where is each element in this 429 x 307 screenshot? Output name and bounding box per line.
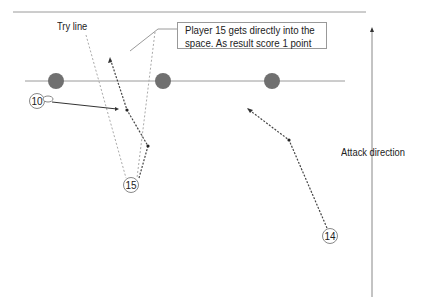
arrowhead-up-icon (370, 27, 374, 32)
player-10: 10 (30, 94, 54, 109)
defender-marker (48, 73, 64, 89)
player-number: 15 (125, 180, 137, 191)
try-line-label: Try line (57, 20, 87, 32)
arrowhead (247, 108, 253, 113)
path-node (287, 138, 290, 141)
callout-box: Player 15 gets directly into the space. … (177, 22, 327, 49)
defender-marker (155, 73, 171, 89)
run-path-14 (248, 109, 327, 228)
ball-icon (43, 96, 53, 102)
player-number: 10 (31, 96, 43, 107)
callout-connector (130, 29, 177, 51)
path-node (125, 108, 128, 111)
callout-text-line1: Player 15 gets directly into the (185, 24, 309, 37)
player-14: 14 (323, 229, 338, 244)
arrowhead (108, 57, 112, 63)
arrowhead (115, 107, 119, 111)
callout-text-line2: space. As result score 1 point (185, 37, 309, 50)
run-path-15 (110, 58, 148, 178)
pass-line-10 (52, 102, 117, 109)
try-line-right (137, 32, 155, 178)
player-15: 15 (124, 178, 139, 193)
player-number: 14 (324, 231, 336, 242)
defender-marker (264, 73, 280, 89)
path-node (146, 144, 149, 147)
attack-direction-label: Attack direction (341, 146, 405, 158)
